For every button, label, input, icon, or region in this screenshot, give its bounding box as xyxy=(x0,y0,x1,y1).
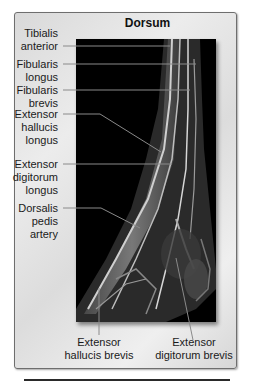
label-fibularis-brevis: Fibularis brevis xyxy=(16,84,58,110)
leader-extensor-digitorum-brevis xyxy=(176,258,193,340)
label-extensor-hallucis-brevis: Extensor hallucis brevis xyxy=(62,336,136,362)
label-tibialis-anterior: Tibialis anterior xyxy=(21,27,58,53)
leader-extensor-hallucis-longus xyxy=(63,114,161,152)
leader-dorsalis-pedis-artery xyxy=(63,208,140,228)
label-fibularis-longus: Fibularis longus xyxy=(16,58,58,84)
label-extensor-digitorum-brevis: Extensor digitorum brevis xyxy=(152,336,236,362)
bottom-divider xyxy=(24,379,230,381)
label-extensor-hallucis-longus: Extensor hallucis longus xyxy=(15,108,58,147)
label-dorsalis-pedis-artery: Dorsalis pedis artery xyxy=(18,202,58,241)
label-extensor-digitorum-longus: Extensor digitorum longus xyxy=(13,158,58,197)
